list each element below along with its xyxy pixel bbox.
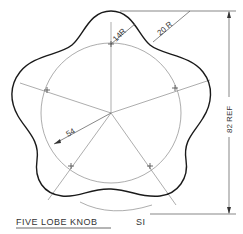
center-lines <box>20 22 210 205</box>
scale-label: SI <box>136 217 146 227</box>
five-lobe-knob-drawing: 82 REF 14R 20 R 54 FIVE LOBE KNOB SI <box>0 0 243 234</box>
lobe-radius-label: 14R <box>111 27 128 44</box>
pitch-radius-dimension: 54 <box>54 113 111 144</box>
drawing-title: FIVE LOBE KNOB <box>16 217 98 227</box>
fillet-radius-label: 20 R <box>156 20 175 38</box>
envelope-arc <box>80 202 152 211</box>
fillet-radius-dimension: 20 R <box>153 11 190 42</box>
pitch-radius-label: 54 <box>65 126 78 139</box>
height-dimension: 82 REF <box>120 11 236 214</box>
overall-height-label: 82 REF <box>225 106 234 133</box>
lobe-radius-dimension: 14R <box>111 24 135 44</box>
